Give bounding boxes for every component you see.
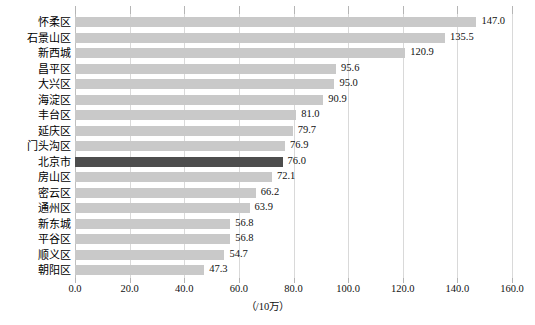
bar (75, 95, 323, 105)
top-tick-mark (184, 6, 185, 14)
bar-value-label: 56.8 (235, 230, 253, 247)
top-tick-mark (457, 6, 458, 14)
top-tick-mark (294, 6, 295, 14)
bar (75, 234, 230, 244)
bar-row: 54.7 (75, 247, 512, 264)
bar-value-label: 66.2 (261, 184, 279, 201)
category-label: 房山区 (0, 169, 71, 186)
category-label: 延庆区 (0, 123, 71, 140)
bar-chart: 怀柔区石景山区新西城昌平区大兴区海淀区丰台区延庆区门头沟区北京市房山区密云区通州… (0, 0, 535, 325)
bar-value-label: 47.3 (209, 261, 227, 278)
bar-value-label: 76.0 (288, 153, 306, 170)
bar-row: 95.0 (75, 76, 512, 93)
bar-row: 63.9 (75, 200, 512, 217)
bar-row: 147.0 (75, 14, 512, 31)
bar (75, 110, 296, 120)
x-axis-tick-labels: 0.020.040.060.080.0100.0120.0140.0160.0 (75, 282, 512, 298)
bar-value-label: 81.0 (301, 106, 319, 123)
category-label: 昌平区 (0, 61, 71, 78)
bar-row: 95.6 (75, 61, 512, 78)
category-label: 通州区 (0, 200, 71, 217)
bar-row: 56.8 (75, 216, 512, 233)
bar (75, 265, 204, 275)
x-tick-label: 20.0 (120, 282, 138, 296)
bar-row: 120.9 (75, 45, 512, 62)
bar-row: 81.0 (75, 107, 512, 124)
x-tick-label: 140.0 (446, 282, 470, 296)
bar-value-label: 72.1 (277, 168, 295, 185)
category-label: 怀柔区 (0, 14, 71, 31)
bar (75, 172, 272, 182)
bar-highlight (75, 157, 283, 167)
category-label: 石景山区 (0, 30, 71, 47)
top-tick-mark (239, 6, 240, 14)
top-tick-mark (512, 6, 513, 14)
y-axis-category-labels: 怀柔区石景山区新西城昌平区大兴区海淀区丰台区延庆区门头沟区北京市房山区密云区通州… (0, 14, 71, 278)
bar (75, 188, 256, 198)
bar-value-label: 135.5 (450, 29, 474, 46)
bar (75, 141, 285, 151)
bar (75, 203, 250, 213)
category-label: 新东城 (0, 216, 71, 233)
top-tick-mark (403, 6, 404, 14)
bar-row: 56.8 (75, 231, 512, 248)
bar (75, 17, 476, 27)
bar (75, 33, 445, 43)
category-label: 北京市 (0, 154, 71, 171)
bar (75, 79, 334, 89)
bar-value-label: 95.0 (339, 75, 357, 92)
top-tick-mark (348, 6, 349, 14)
bar-row: 66.2 (75, 185, 512, 202)
category-label: 朝阳区 (0, 262, 71, 279)
bar (75, 219, 230, 229)
bar-value-label: 56.8 (235, 215, 253, 232)
category-label: 门头沟区 (0, 138, 71, 155)
x-tick-label: 0.0 (68, 282, 81, 296)
x-tick-label: 40.0 (175, 282, 193, 296)
top-tick-mark (130, 6, 131, 14)
x-tick-label: 60.0 (230, 282, 248, 296)
bar (75, 64, 336, 74)
x-tick-label: 160.0 (500, 282, 524, 296)
category-label: 密云区 (0, 185, 71, 202)
x-tick-label: 120.0 (391, 282, 415, 296)
bar (75, 48, 405, 58)
bar (75, 126, 293, 136)
bar (75, 250, 224, 260)
bar-row: 47.3 (75, 262, 512, 279)
category-label: 海淀区 (0, 92, 71, 109)
bar-row: 135.5 (75, 30, 512, 47)
category-label: 顺义区 (0, 247, 71, 264)
gridline (512, 14, 513, 278)
x-tick-label: 100.0 (336, 282, 360, 296)
category-label: 大兴区 (0, 76, 71, 93)
bar-row: 72.1 (75, 169, 512, 186)
category-label: 平谷区 (0, 231, 71, 248)
bar-value-label: 79.7 (298, 122, 316, 139)
plot-area: 147.0135.5120.995.695.090.981.079.776.97… (75, 14, 512, 278)
bar-row: 90.9 (75, 92, 512, 109)
bar-value-label: 147.0 (481, 13, 505, 30)
bar-value-label: 76.9 (290, 137, 308, 154)
top-tick-mark (75, 6, 76, 14)
x-tick-label: 80.0 (284, 282, 302, 296)
bar-value-label: 63.9 (255, 199, 273, 216)
category-label: 新西城 (0, 45, 71, 62)
bar-value-label: 120.9 (410, 44, 434, 61)
bar-value-label: 95.6 (341, 60, 359, 77)
bar-value-label: 90.9 (328, 91, 346, 108)
bar-value-label: 54.7 (229, 246, 247, 263)
category-label: 丰台区 (0, 107, 71, 124)
x-axis-unit-label: （/10万） (0, 300, 535, 314)
